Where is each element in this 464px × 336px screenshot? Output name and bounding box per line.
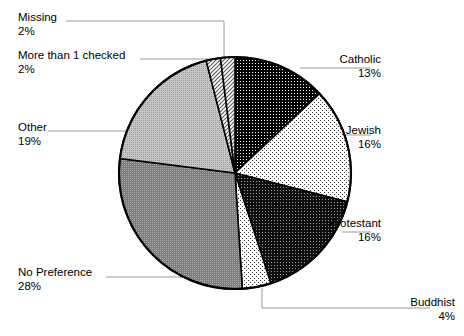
slice-label-missing-name: Missing <box>18 10 57 24</box>
slice-label-no-preference: No Preference 28% <box>18 265 92 293</box>
pie-chart-figure: Missing 2% More than 1 checked 2% Other … <box>0 0 464 336</box>
slice-label-more-than-1-checked: More than 1 checked 2% <box>18 48 125 76</box>
slice-label-catholic-name: Catholic <box>339 52 381 66</box>
slice-label-catholic: Catholic 13% <box>339 52 381 80</box>
slice-label-buddhist-percent: 4% <box>410 309 455 323</box>
slice-label-protestant-name: Protestant <box>329 216 381 230</box>
slice-label-catholic-percent: 13% <box>339 66 381 80</box>
slice-label-more-than-1-checked-percent: 2% <box>18 62 125 76</box>
slice-label-jewish: Jewish 16% <box>346 123 381 151</box>
slice-label-other-name: Other <box>18 120 47 134</box>
leader-line-buddhist <box>262 288 430 308</box>
slice-label-missing-percent: 2% <box>18 24 57 38</box>
slice-label-other: Other 19% <box>18 120 47 148</box>
pie-slices-group <box>119 57 351 289</box>
slice-label-missing: Missing 2% <box>18 10 57 38</box>
slice-label-no-preference-percent: 28% <box>18 279 92 293</box>
slice-label-other-percent: 19% <box>18 134 47 148</box>
slice-label-more-than-1-checked-name: More than 1 checked <box>18 48 125 62</box>
slice-label-protestant: Protestant 16% <box>329 216 381 244</box>
slice-label-jewish-name: Jewish <box>346 123 381 137</box>
slice-label-jewish-percent: 16% <box>346 137 381 151</box>
slice-label-buddhist: Buddhist 4% <box>410 295 455 323</box>
slice-label-no-preference-name: No Preference <box>18 265 92 279</box>
slice-label-protestant-percent: 16% <box>329 230 381 244</box>
slice-label-buddhist-name: Buddhist <box>410 295 455 309</box>
pie-slice-no-preference[interactable] <box>119 158 242 289</box>
